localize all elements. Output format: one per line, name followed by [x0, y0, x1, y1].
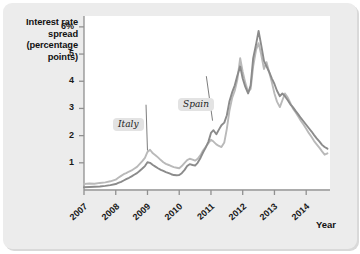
- y-tick-label-1: 1: [44, 157, 74, 167]
- y-tick-label-5: 5: [44, 48, 74, 58]
- chart-figure: Interest rate spread (percentage points)…: [0, 0, 360, 254]
- series-line-italy: [84, 43, 327, 184]
- series-label-spain: Spain: [178, 98, 214, 111]
- y-tick-label-3: 3: [44, 102, 74, 112]
- leader-line-italy: [146, 105, 147, 151]
- y-tick-label-2: 2: [44, 130, 74, 140]
- y-tick-label-4: 4: [44, 75, 74, 85]
- x-axis-title: Year: [316, 219, 336, 230]
- series-label-italy: Italy: [113, 118, 144, 131]
- y-tick-label-6: 6%: [44, 21, 74, 31]
